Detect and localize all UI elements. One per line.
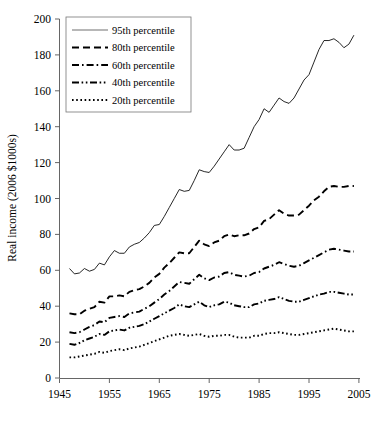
- y-tick-label: 120: [34, 157, 52, 169]
- y-tick-label: 0: [45, 372, 51, 384]
- chart-legend: 95th percentile80th percentile60th perce…: [66, 17, 191, 112]
- legend-label: 40th percentile: [112, 77, 175, 88]
- x-tick-label: 1975: [198, 388, 221, 400]
- x-tick-label: 1955: [98, 388, 121, 400]
- chart-figure: 200 180 160 140 120 100 80 60 40 20 0 19…: [0, 0, 378, 426]
- x-tick-label: 1995: [298, 388, 321, 400]
- y-tick-label: 60: [40, 264, 52, 276]
- x-tick-label: 1945: [48, 388, 71, 400]
- y-axis-title: Real income (2006 $1000s): [6, 134, 19, 262]
- y-tick-label: 80: [40, 228, 52, 240]
- legend-label: 95th percentile: [112, 25, 175, 36]
- y-tick-label: 40: [40, 300, 52, 312]
- y-tick-label: 20: [40, 336, 52, 348]
- y-tick-label: 160: [34, 85, 52, 97]
- y-tick-label: 140: [34, 121, 52, 133]
- x-tick-label: 1985: [248, 388, 271, 400]
- y-tick-label: 200: [34, 13, 52, 25]
- y-tick-label: 100: [34, 193, 52, 205]
- line-chart: 200 180 160 140 120 100 80 60 40 20 0 19…: [0, 0, 378, 426]
- legend-label: 20th percentile: [112, 95, 175, 106]
- legend-label: 80th percentile: [112, 42, 175, 53]
- legend-label: 60th percentile: [112, 60, 175, 71]
- x-tick-label: 2005: [347, 388, 370, 400]
- x-tick-label: 1965: [148, 388, 171, 400]
- y-tick-label: 180: [34, 49, 52, 61]
